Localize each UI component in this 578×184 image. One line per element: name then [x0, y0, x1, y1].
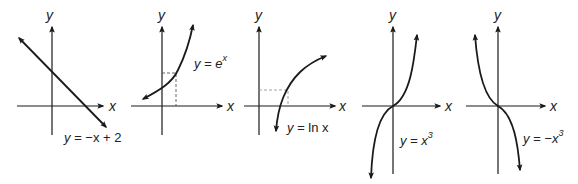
x-axis-label: x	[108, 98, 117, 114]
equation-label: y = −x3	[522, 128, 563, 146]
y-axis-label: y	[45, 7, 54, 23]
graph-cubic: y x y = x3	[362, 7, 453, 178]
function-curve	[19, 38, 106, 127]
y-axis-label: y	[254, 7, 263, 23]
x-axis-label: x	[338, 98, 347, 114]
graph-logarithm: y x y = ln x	[244, 7, 347, 135]
y-axis-label: y	[157, 7, 166, 23]
equation-label: y = −x + 2	[63, 130, 121, 145]
y-axis-label: y	[388, 7, 397, 23]
function-graphs-figure: y x y = −x + 2 y x y = ex y x y = ln x y	[0, 0, 578, 184]
y-axis-label: y	[493, 7, 502, 23]
x-axis-label: x	[226, 98, 235, 114]
graph-negative-cubic: y x y = −x3	[466, 7, 563, 174]
graph-linear: y x y = −x + 2	[17, 7, 121, 145]
function-curve	[143, 25, 193, 99]
equation-label: y = ln x	[286, 120, 329, 135]
equation-label: y = x3	[399, 130, 433, 148]
x-axis-label: x	[549, 98, 558, 114]
equation-label: y = ex	[193, 53, 228, 71]
graph-exponential: y x y = ex	[131, 7, 235, 135]
x-axis-label: x	[444, 98, 453, 114]
